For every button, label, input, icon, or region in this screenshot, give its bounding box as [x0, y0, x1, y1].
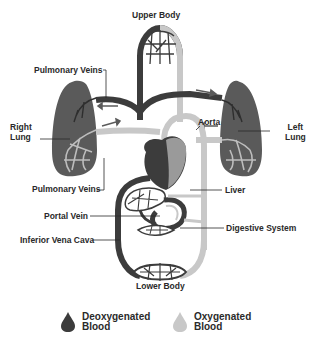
label-lower-body: Lower Body: [136, 281, 185, 291]
legend-oxygenated-label: Oxygenated Blood: [194, 312, 254, 332]
label-right-lung: Right Lung: [10, 122, 32, 142]
legend-oxygenated-line2: Blood: [194, 322, 254, 332]
legend-deoxygenated: Deoxygenated Blood: [60, 311, 142, 333]
label-pulmonary-veins-top: Pulmonary Veins: [34, 65, 103, 75]
label-aorta: Aorta: [198, 117, 220, 127]
legend-deoxygenated-label: Deoxygenated Blood: [82, 312, 142, 332]
label-left-lung-line2: Lung: [285, 132, 306, 142]
label-right-lung-line1: Right: [10, 122, 32, 132]
left-lung: [220, 81, 262, 177]
label-digestive-system: Digestive System: [226, 223, 296, 233]
right-lung: [52, 81, 97, 177]
label-right-lung-line2: Lung: [10, 132, 32, 142]
label-liver: Liver: [225, 185, 245, 195]
blood-drop-light-icon: [172, 311, 188, 333]
legend-deoxygenated-line2: Blood: [82, 322, 142, 332]
blood-drop-dark-icon: [60, 311, 76, 333]
label-left-lung-line1: Left: [285, 122, 306, 132]
label-left-lung: Left Lung: [285, 122, 306, 142]
label-inferior-vena-cava: Inferior Vena Cava: [20, 235, 94, 245]
liver: [125, 188, 165, 211]
circulatory-diagram: [0, 0, 317, 351]
legend-oxygenated: Oxygenated Blood: [172, 311, 254, 333]
label-pulmonary-veins-bottom: Pulmonary Veins: [32, 184, 101, 194]
heart: [144, 136, 186, 190]
label-portal-vein: Portal Vein: [44, 211, 88, 221]
lower-body-capillaries: [134, 263, 186, 281]
pulmonary-vein-right: [96, 131, 160, 133]
label-upper-body: Upper Body: [132, 10, 180, 20]
